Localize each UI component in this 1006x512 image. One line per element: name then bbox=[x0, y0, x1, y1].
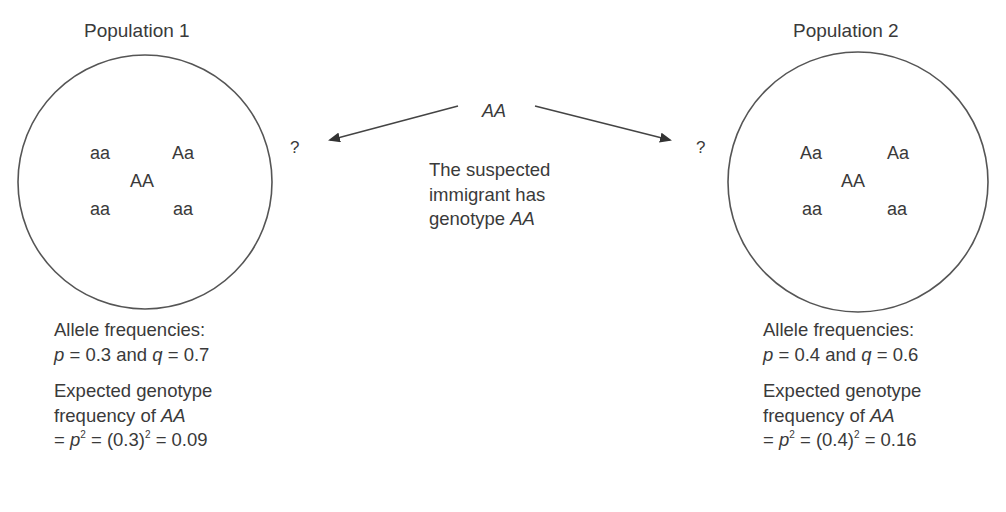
population1-genotype: Aa bbox=[172, 143, 194, 164]
population2-genotype: AA bbox=[841, 171, 865, 192]
population1-genotype: aa bbox=[90, 143, 110, 164]
population1-genotype: AA bbox=[130, 171, 154, 192]
question-mark-right: ? bbox=[696, 138, 705, 158]
allele-frequencies-label: Allele frequencies: bbox=[763, 318, 921, 343]
population2-genotype: Aa bbox=[887, 143, 909, 164]
allele-frequencies-label: Allele frequencies: bbox=[54, 318, 212, 343]
immigrant-caption: The suspected immigrant has genotype AA bbox=[429, 158, 550, 232]
population1-genotype: aa bbox=[173, 199, 193, 220]
population1-genotype: aa bbox=[90, 199, 110, 220]
arrow-to-population1 bbox=[330, 106, 458, 140]
question-mark-left: ? bbox=[290, 138, 299, 158]
expected-label-2: frequency of AA bbox=[763, 404, 921, 429]
arrow-to-population2 bbox=[535, 106, 670, 140]
population2-genotype: Aa bbox=[800, 143, 822, 164]
expected-label: Expected genotype bbox=[54, 379, 212, 404]
population2-info: Allele frequencies: p = 0.4 and q = 0.6 … bbox=[763, 318, 921, 453]
population1-info: Allele frequencies: p = 0.3 and q = 0.7 … bbox=[54, 318, 212, 453]
immigrant-genotype: AA bbox=[482, 101, 506, 122]
population2-genotype: aa bbox=[887, 199, 907, 220]
population2-title: Population 2 bbox=[793, 20, 899, 42]
allele-frequencies-values: p = 0.4 and q = 0.6 bbox=[763, 343, 921, 368]
expected-label: Expected genotype bbox=[763, 379, 921, 404]
expected-formula: = p2 = (0.4)2 = 0.16 bbox=[763, 428, 921, 453]
allele-frequencies-values: p = 0.3 and q = 0.7 bbox=[54, 343, 212, 368]
population2-genotype: aa bbox=[802, 199, 822, 220]
population1-title: Population 1 bbox=[84, 20, 190, 42]
expected-label-2: frequency of AA bbox=[54, 404, 212, 429]
expected-formula: = p2 = (0.3)2 = 0.09 bbox=[54, 428, 212, 453]
